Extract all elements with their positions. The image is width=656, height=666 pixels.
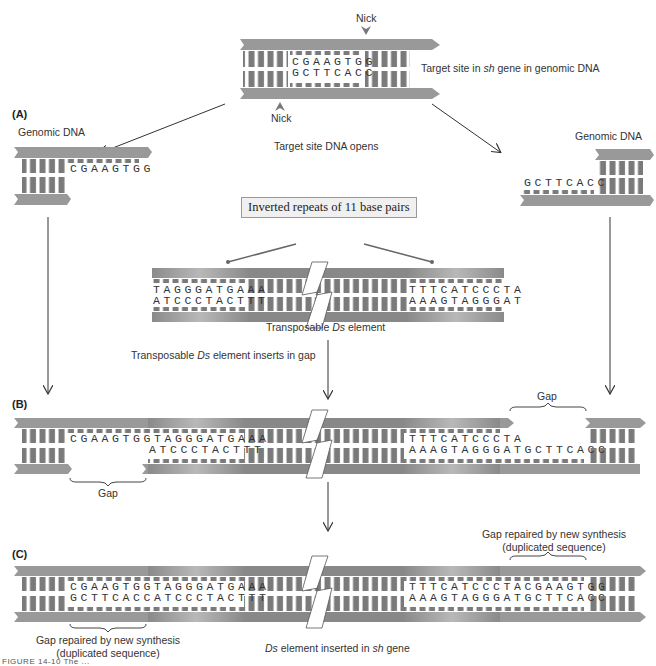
nick-arrowhead-bottom	[275, 102, 285, 111]
ds-inserts-label: Transposable Ds element inserts in gap	[131, 349, 316, 361]
panel-b-letter: (B)	[12, 398, 27, 410]
gap-label-right: Gap	[537, 390, 557, 402]
nick-arrowhead-top	[361, 26, 371, 35]
gap-label-left: Gap	[98, 487, 118, 499]
nick-label-top: Nick	[356, 12, 376, 24]
c-left-bottom-seq: GCTTCACCATCCCTACTTT	[70, 592, 270, 603]
target-site-label: Target site in sh gene in genomic DNA	[421, 62, 600, 74]
genomic-dna-left	[14, 147, 152, 205]
panel-c-letter: (C)	[12, 548, 27, 560]
b-left-bottom-seq: ATCCCTACTTT	[149, 444, 265, 455]
nick-label-bottom: Nick	[271, 112, 291, 124]
gap-repaired-label-right: Gap repaired by new synthesis (duplicate…	[474, 528, 634, 554]
ds-left-bottom-seq: ATCCCTACTTT	[153, 295, 269, 306]
ds-inserted-label: Ds element inserted in sh gene	[265, 642, 410, 654]
diagram-graphics	[0, 0, 656, 666]
genomic-dna-left-seq: CGAAGTGG	[70, 163, 154, 174]
b-right-bottom-seq: AAAGTAGGGATGCTTCACC	[409, 444, 609, 455]
genomic-dna-left-label: Genomic DNA	[18, 126, 85, 138]
figure-caption: FIGURE 14-10 The ...	[2, 657, 90, 666]
genomic-dna-right-seq: GCTTCACC	[524, 177, 608, 188]
ds-right-bottom-seq: AAAGTAGGGAT	[409, 295, 525, 306]
inverted-repeats-label: Inverted repeats of 11 base pairs	[241, 197, 417, 218]
c-right-bottom-seq: AAAGTAGGGATGCTTCACC	[409, 592, 609, 603]
target-site-opens-label: Target site DNA opens	[274, 140, 378, 152]
target-seq-bottom: GCTTCACC	[292, 67, 376, 78]
genomic-dna-right-label: Genomic DNA	[575, 130, 642, 142]
panel-a-letter: (A)	[12, 108, 27, 120]
ds-element-label: Transposable Ds element	[266, 321, 385, 333]
